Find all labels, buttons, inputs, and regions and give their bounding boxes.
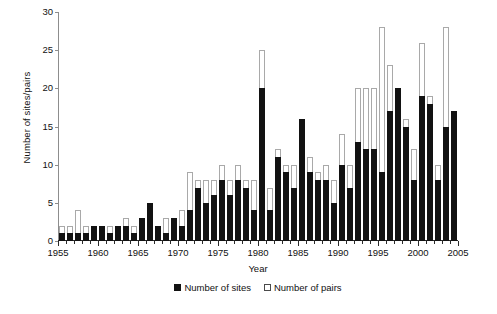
bar-group[interactable] xyxy=(339,12,345,241)
bar-group[interactable] xyxy=(371,12,377,241)
bar-number-of-sites xyxy=(411,180,417,241)
x-tick-mark xyxy=(186,241,187,244)
bar-group[interactable] xyxy=(251,12,257,241)
bar-number-of-sites xyxy=(163,233,169,241)
y-tick-label: 30 xyxy=(42,7,53,17)
bar-number-of-sites xyxy=(67,233,73,241)
x-tick-label: 1995 xyxy=(367,248,388,258)
bar-group[interactable] xyxy=(107,12,113,241)
x-tick-label: 2005 xyxy=(447,248,468,258)
x-tick-mark xyxy=(202,241,203,244)
x-tick-label: 1960 xyxy=(87,248,108,258)
bar-group[interactable] xyxy=(235,12,241,241)
chart-figure: Number of sites/pairs 051015202530 19551… xyxy=(0,0,497,314)
bar-group[interactable] xyxy=(115,12,121,241)
x-tick-mark xyxy=(282,241,283,244)
x-tick-label: 1990 xyxy=(327,248,348,258)
bar-group[interactable] xyxy=(315,12,321,241)
bar-group[interactable] xyxy=(291,12,297,241)
y-tick-label: 0 xyxy=(48,236,53,246)
bar-number-of-sites xyxy=(131,233,137,241)
bar-number-of-sites xyxy=(419,96,425,241)
bar-group[interactable] xyxy=(443,12,449,241)
bar-group[interactable] xyxy=(59,12,65,241)
bar-group[interactable] xyxy=(299,12,305,241)
bar-group[interactable] xyxy=(147,12,153,241)
bar-group[interactable] xyxy=(139,12,145,241)
y-tick-label: 15 xyxy=(42,122,53,132)
bar-group[interactable] xyxy=(363,12,369,241)
bar-group[interactable] xyxy=(379,12,385,241)
x-tick-label: 1965 xyxy=(127,248,148,258)
bar-group[interactable] xyxy=(387,12,393,241)
bar-group[interactable] xyxy=(171,12,177,241)
bar-number-of-sites xyxy=(299,119,305,241)
bar-group[interactable] xyxy=(67,12,73,241)
bar-group[interactable] xyxy=(403,12,409,241)
bar-number-of-sites xyxy=(171,218,177,241)
bar-group[interactable] xyxy=(355,12,361,241)
bar-group[interactable] xyxy=(331,12,337,241)
bar-group[interactable] xyxy=(227,12,233,241)
bar-group[interactable] xyxy=(451,12,457,241)
bar-number-of-sites xyxy=(267,210,273,241)
bar-number-of-sites xyxy=(427,104,433,241)
x-tick-mark xyxy=(210,241,211,244)
bar-group[interactable] xyxy=(283,12,289,241)
bar-group[interactable] xyxy=(307,12,313,241)
bar-group[interactable] xyxy=(275,12,281,241)
bar-group[interactable] xyxy=(419,12,425,241)
bar-number-of-sites xyxy=(195,188,201,241)
bar-group[interactable] xyxy=(83,12,89,241)
x-tick-mark xyxy=(106,241,107,244)
x-tick-mark xyxy=(338,241,339,246)
x-tick-mark xyxy=(266,241,267,244)
bar-number-of-sites xyxy=(371,149,377,241)
bar-group[interactable] xyxy=(195,12,201,241)
x-tick-mark xyxy=(138,241,139,246)
bar-number-of-sites xyxy=(123,226,129,241)
x-tick-mark xyxy=(298,241,299,246)
bar-group[interactable] xyxy=(155,12,161,241)
bar-group[interactable] xyxy=(179,12,185,241)
chart-legend: Number of sitesNumber of pairs xyxy=(58,282,458,293)
bar-series-layer xyxy=(58,12,458,241)
bar-group[interactable] xyxy=(75,12,81,241)
x-tick-mark xyxy=(306,241,307,244)
bar-group[interactable] xyxy=(435,12,441,241)
bar-group[interactable] xyxy=(347,12,353,241)
bar-group[interactable] xyxy=(411,12,417,241)
bar-group[interactable] xyxy=(203,12,209,241)
bar-group[interactable] xyxy=(91,12,97,241)
bar-group[interactable] xyxy=(123,12,129,241)
bar-group[interactable] xyxy=(243,12,249,241)
bar-group[interactable] xyxy=(267,12,273,241)
bar-group[interactable] xyxy=(163,12,169,241)
bar-group[interactable] xyxy=(99,12,105,241)
bar-number-of-sites xyxy=(363,149,369,241)
x-tick-mark xyxy=(170,241,171,244)
x-tick-mark xyxy=(410,241,411,244)
bar-group[interactable] xyxy=(259,12,265,241)
bar-number-of-sites xyxy=(147,203,153,241)
bar-number-of-sites xyxy=(155,226,161,241)
bar-group[interactable] xyxy=(427,12,433,241)
x-tick-label: 1970 xyxy=(167,248,188,258)
x-tick-mark xyxy=(82,241,83,244)
bar-group[interactable] xyxy=(211,12,217,241)
bar-number-of-sites xyxy=(251,210,257,241)
bar-number-of-sites xyxy=(379,172,385,241)
x-tick-mark xyxy=(322,241,323,244)
bar-group[interactable] xyxy=(187,12,193,241)
bar-group[interactable] xyxy=(395,12,401,241)
x-tick-mark xyxy=(178,241,179,246)
x-tick-mark xyxy=(74,241,75,244)
plot-area: 051015202530 xyxy=(58,12,458,241)
x-tick-label: 1955 xyxy=(47,248,68,258)
x-tick-mark xyxy=(442,241,443,244)
bar-group[interactable] xyxy=(219,12,225,241)
bar-group[interactable] xyxy=(131,12,137,241)
x-tick-label: 1985 xyxy=(287,248,308,258)
bar-group[interactable] xyxy=(323,12,329,241)
legend-entry: Number of sites xyxy=(174,282,251,293)
